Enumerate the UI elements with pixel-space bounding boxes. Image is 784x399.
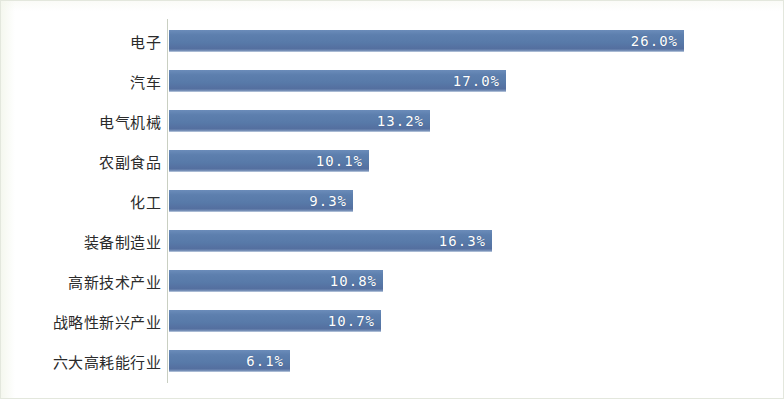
bar-value-label: 16.3%: [439, 233, 486, 249]
bar-value-label: 9.3%: [309, 193, 347, 209]
chart-row: 战略性新兴产业10.7%: [1, 301, 784, 341]
category-label: 战略性新兴产业: [53, 311, 162, 332]
bar: 10.1%: [169, 150, 369, 172]
bar-chart-figure: 电子26.0%汽车17.0%电气机械13.2%农副食品10.1%化工9.3%装备…: [0, 0, 784, 399]
bar-value-label: 10.7%: [328, 313, 375, 329]
bar-value-label: 17.0%: [453, 73, 500, 89]
bar: 16.3%: [169, 230, 492, 252]
category-label: 高新技术产业: [68, 271, 161, 292]
chart-row: 高新技术产业10.8%: [1, 261, 784, 301]
chart-row: 农副食品10.1%: [1, 141, 784, 181]
chart-row: 汽车17.0%: [1, 61, 784, 101]
category-label: 电气机械: [99, 111, 161, 132]
bar-value-label: 10.8%: [330, 273, 377, 289]
category-label: 六大高耗能行业: [53, 351, 162, 372]
bar-value-label: 6.1%: [246, 353, 284, 369]
chart-row: 电子26.0%: [1, 21, 784, 61]
chart-row: 六大高耗能行业6.1%: [1, 341, 784, 381]
chart-row: 化工9.3%: [1, 181, 784, 221]
chart-row: 装备制造业16.3%: [1, 221, 784, 261]
bar-value-label: 10.1%: [316, 153, 363, 169]
bar: 26.0%: [169, 30, 684, 52]
category-label: 电子: [130, 31, 161, 52]
category-label: 农副食品: [99, 151, 161, 172]
category-label: 装备制造业: [84, 231, 162, 252]
plot-area: 电子26.0%汽车17.0%电气机械13.2%农副食品10.1%化工9.3%装备…: [1, 1, 784, 399]
chart-row: 电气机械13.2%: [1, 101, 784, 141]
bar: 10.7%: [169, 310, 381, 332]
bar: 9.3%: [169, 190, 353, 212]
bar: 10.8%: [169, 270, 383, 292]
category-label: 汽车: [130, 71, 161, 92]
bar: 13.2%: [169, 110, 430, 132]
bar-value-label: 13.2%: [377, 113, 424, 129]
bar: 6.1%: [169, 350, 290, 372]
category-label: 化工: [130, 191, 161, 212]
bar-value-label: 26.0%: [631, 33, 678, 49]
bar: 17.0%: [169, 70, 506, 92]
